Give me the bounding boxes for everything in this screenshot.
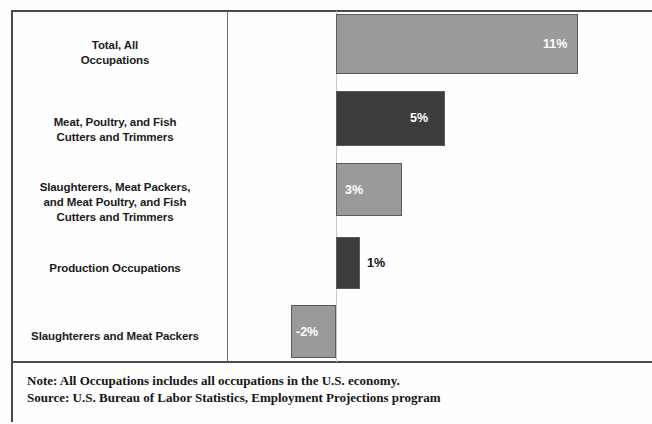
footnote-block: Note: All Occupations includes all occup… [27,372,627,406]
bar-value-4: -2% [296,325,318,339]
footnote-note: Note: All Occupations includes all occup… [27,372,627,389]
bar-value-2: 3% [345,183,363,197]
bar-value-3: 1% [367,256,385,270]
bar-0 [336,14,578,74]
bar-1 [336,91,445,146]
bar-chart-figure: Total, All Occupations Meat, Poultry, an… [0,0,652,424]
bar-value-1: 5% [410,111,428,125]
bar-3 [336,237,360,289]
footnote-source: Source: U.S. Bureau of Labor Statistics,… [27,389,627,406]
bar-value-0: 11% [543,37,567,51]
plot-area: 11% 5% 3% 1% -2% [0,0,652,362]
